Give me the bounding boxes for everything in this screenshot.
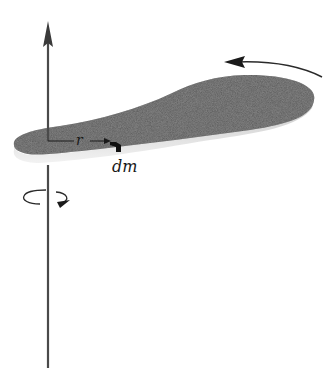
curved-arrowhead-icon	[224, 56, 245, 68]
rotation-indicator	[24, 190, 70, 208]
rotating-body-diagram: r dm	[0, 0, 331, 375]
mass-element-label: dm	[112, 157, 137, 176]
circular-arrowhead-icon	[57, 200, 70, 208]
curved-arrow-icon	[238, 62, 322, 77]
motion-direction	[224, 56, 322, 77]
